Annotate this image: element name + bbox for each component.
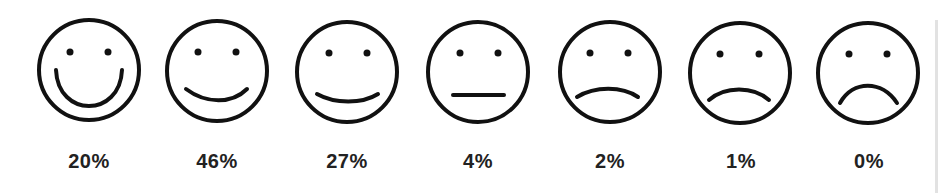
very-sad-face-icon (818, 23, 918, 123)
percent-label-slightly-happy: 27% (307, 150, 387, 173)
percent-label-happy: 46% (177, 150, 257, 173)
slightly-sad-face-icon (560, 22, 660, 122)
percent-label-very-happy: 20% (49, 150, 129, 173)
happy-face-icon (167, 21, 267, 121)
neutral-face-icon (428, 22, 528, 122)
satisfaction-chart: 20% 46% 27% 4% 2% 1% 0% (0, 0, 938, 193)
percent-label-very-sad: 0% (829, 150, 909, 173)
very-happy-face-icon (39, 20, 139, 120)
percent-label-sad: 1% (701, 150, 781, 173)
percent-label-neutral: 4% (438, 150, 518, 173)
slightly-happy-face-icon (297, 22, 397, 122)
percent-label-slightly-sad: 2% (570, 150, 650, 173)
sad-face-icon (690, 23, 790, 123)
